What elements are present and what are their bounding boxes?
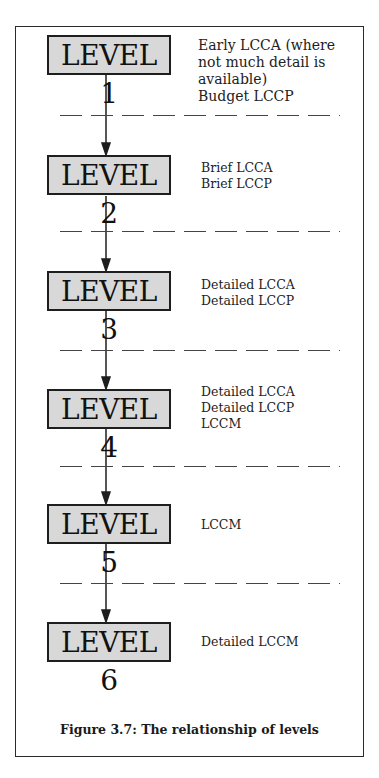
level-box-1: LEVEL 1 bbox=[47, 35, 171, 75]
arrowhead-icon bbox=[102, 259, 110, 271]
level-divider bbox=[60, 350, 340, 351]
level-description-6: Detailed LCCM bbox=[201, 634, 299, 650]
arrowhead-icon bbox=[102, 492, 110, 504]
level-description-3: Detailed LCCA Detailed LCCP bbox=[201, 277, 295, 309]
level-description-1: Early LCCA (where not much detail is ava… bbox=[198, 37, 335, 105]
level-box-3: LEVEL 3 bbox=[47, 271, 171, 311]
level-box-6: LEVEL 6 bbox=[47, 622, 171, 662]
level-description-5: LCCM bbox=[201, 517, 241, 533]
arrowhead-icon bbox=[102, 610, 110, 622]
arrowhead-icon bbox=[102, 377, 110, 389]
level-box-2: LEVEL 2 bbox=[47, 155, 171, 195]
level-divider bbox=[60, 583, 340, 584]
level-divider bbox=[60, 115, 340, 116]
level-box-5: LEVEL 5 bbox=[47, 504, 171, 544]
figure-caption: Figure 3.7: The relationship of levels bbox=[15, 722, 364, 737]
arrowhead-icon bbox=[102, 143, 110, 155]
level-description-4: Detailed LCCA Detailed LCCP LCCM bbox=[201, 384, 295, 432]
level-box-4: LEVEL 4 bbox=[47, 389, 171, 429]
level-description-2: Brief LCCA Brief LCCP bbox=[201, 160, 273, 192]
